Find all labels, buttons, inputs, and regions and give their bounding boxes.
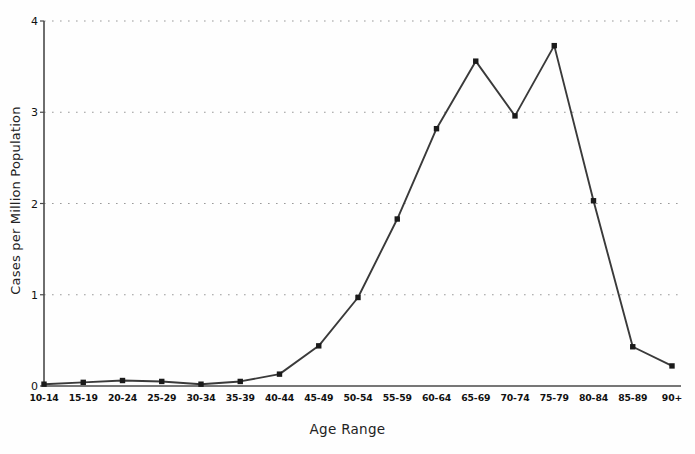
gridlines-group (44, 21, 681, 295)
data-point-marker (81, 380, 86, 385)
data-point-marker (277, 371, 282, 376)
x-tick-label: 90+ (662, 392, 682, 403)
y-tick-label: 2 (20, 197, 38, 210)
data-series-group (44, 46, 672, 385)
x-tick-label: 80-84 (579, 392, 608, 403)
x-tick-label: 55-59 (383, 392, 412, 403)
series-line (44, 46, 672, 385)
data-point-marker (552, 43, 557, 48)
x-tick-label: 25-29 (147, 392, 176, 403)
x-tick-label: 65-69 (461, 392, 490, 403)
axes-group (40, 21, 681, 386)
data-point-marker (591, 198, 596, 203)
x-tick-label: 15-19 (69, 392, 98, 403)
data-point-marker (512, 113, 517, 118)
x-tick-label: 30-34 (186, 392, 215, 403)
x-tick-label: 50-54 (343, 392, 372, 403)
x-tick-label: 40-44 (265, 392, 294, 403)
data-point-marker (434, 126, 439, 131)
data-point-marker (395, 216, 400, 221)
y-tick-label: 1 (20, 288, 38, 301)
data-point-marker (41, 381, 46, 386)
y-tick-label: 0 (20, 380, 38, 393)
data-point-marker (120, 378, 125, 383)
x-tick-label: 20-24 (108, 392, 137, 403)
x-tick-label: 75-79 (540, 392, 569, 403)
data-point-marker (159, 379, 164, 384)
chart-container: Cases per Million Population Age Range 0… (0, 0, 695, 454)
x-tick-label: 10-14 (29, 392, 58, 403)
data-point-marker (355, 295, 360, 300)
x-tick-label: 70-74 (500, 392, 529, 403)
x-axis-title: Age Range (0, 421, 695, 437)
data-point-marker (238, 379, 243, 384)
line-chart-plot (0, 0, 695, 454)
data-point-marker (669, 363, 674, 368)
y-tick-label: 4 (20, 15, 38, 28)
data-point-marker (473, 58, 478, 63)
x-tick-label: 60-64 (422, 392, 451, 403)
x-tick-label: 45-49 (304, 392, 333, 403)
data-point-marker (630, 344, 635, 349)
y-tick-label: 3 (20, 106, 38, 119)
x-tick-label: 85-89 (618, 392, 647, 403)
data-point-marker (316, 343, 321, 348)
data-point-marker (198, 381, 203, 386)
x-tick-label: 35-39 (226, 392, 255, 403)
data-markers-group (41, 43, 674, 387)
